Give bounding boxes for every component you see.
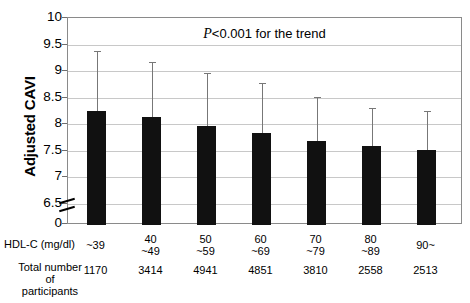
error-bar-stem — [152, 62, 153, 117]
category-line2: ~79 — [289, 246, 343, 258]
y-tick-label: 8 — [24, 116, 62, 130]
error-bar-cap — [94, 51, 101, 52]
error-bar-stem — [207, 73, 208, 127]
category-line1: 70 — [289, 234, 343, 246]
category-line1: 90~ — [399, 240, 453, 252]
y-tick-label: 7 — [24, 169, 62, 183]
category-line2: ~59 — [179, 246, 233, 258]
category-cell: 50~59 — [179, 234, 233, 257]
category-cell: 70~79 — [289, 234, 343, 257]
y-tick-label: 8.5 — [24, 90, 62, 104]
bar — [87, 111, 106, 225]
error-bar-cap — [259, 83, 266, 84]
error-bar-stem — [372, 108, 373, 146]
category-cell: 60~69 — [234, 234, 288, 257]
category-cell: 40~49 — [124, 234, 178, 257]
category-line2: ~49 — [124, 246, 178, 258]
bar — [252, 133, 271, 225]
category-cell: 80~89 — [344, 234, 398, 257]
category-table: HDL-C (mg/dl) Total number of participan… — [0, 228, 470, 303]
participant-count-cell: 4941 — [179, 264, 233, 276]
category-cell: 90~ — [399, 240, 453, 252]
participant-count-cell: 2558 — [344, 264, 398, 276]
pvalue-text: <0.001 for the trend — [212, 26, 326, 41]
participant-count-cell: 2513 — [399, 264, 453, 276]
gridline — [68, 45, 461, 46]
error-bar-cap — [314, 97, 321, 98]
error-bar-stem — [427, 111, 428, 150]
plot-area: P<0.001 for the trend — [67, 17, 462, 224]
bar — [142, 117, 161, 225]
bar — [362, 146, 381, 225]
category-line1: 50 — [179, 234, 233, 246]
category-line1: 80 — [344, 234, 398, 246]
error-bar-stem — [317, 97, 318, 141]
error-bar-cap — [424, 111, 431, 112]
participant-count-cell: 3810 — [289, 264, 343, 276]
gridline — [68, 98, 461, 99]
y-tick-label: 9.5 — [24, 37, 62, 51]
bar — [197, 126, 216, 225]
category-line1: ~39 — [69, 240, 123, 252]
bar — [307, 141, 326, 225]
category-cell: ~39 — [69, 240, 123, 252]
participant-count-cell: 4851 — [234, 264, 288, 276]
participant-count-cell: 1170 — [69, 264, 123, 276]
y-tick-label: 6.5 — [24, 196, 62, 210]
error-bar-cap — [204, 73, 211, 74]
error-bar-stem — [262, 83, 263, 133]
error-bar-stem — [97, 51, 98, 111]
gridline — [68, 71, 461, 72]
trend-annotation: P<0.001 for the trend — [68, 26, 461, 42]
y-tick-label: 7.5 — [24, 143, 62, 157]
category-line2: ~69 — [234, 246, 288, 258]
total-row-label-line3: participants — [2, 285, 98, 297]
pvalue-symbol: P — [203, 26, 212, 41]
gridline — [68, 124, 461, 125]
bar — [417, 150, 436, 225]
category-line2: ~89 — [344, 246, 398, 258]
error-bar-cap — [369, 108, 376, 109]
chart-figure: Adjusted CAVI 109.598.587.576.50 P<0.001… — [0, 0, 470, 303]
category-line1: 40 — [124, 234, 178, 246]
y-tick-label: 10 — [24, 10, 62, 24]
participant-count-cell: 3414 — [124, 264, 178, 276]
error-bar-cap — [149, 62, 156, 63]
y-tick-label: 9 — [24, 63, 62, 77]
category-line1: 60 — [234, 234, 288, 246]
